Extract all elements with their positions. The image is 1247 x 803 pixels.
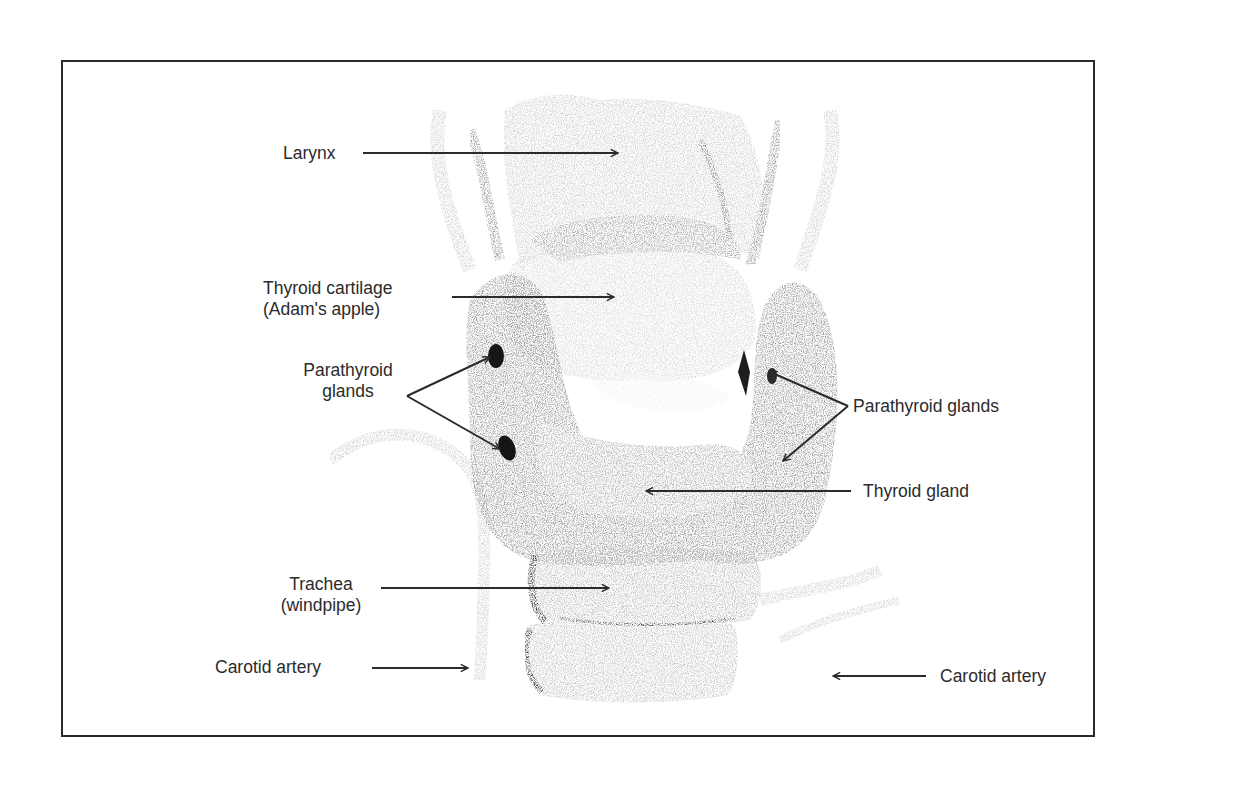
- label-larynx-text: Larynx: [283, 143, 336, 163]
- label-thyroid-gland: Thyroid gland: [863, 481, 969, 502]
- label-carotid-right-text: Carotid artery: [940, 666, 1046, 686]
- label-thyroid-cartilage-line1: Thyroid cartilage: [263, 278, 392, 299]
- larynx-shape: [470, 95, 780, 265]
- label-thyroid-gland-text: Thyroid gland: [863, 481, 969, 501]
- label-carotid-left: Carotid artery: [215, 657, 321, 678]
- label-parathyroid-right-text: Parathyroid glands: [853, 396, 999, 416]
- label-larynx: Larynx: [283, 143, 336, 164]
- label-parathyroid-left-line1: Parathyroid: [296, 360, 400, 381]
- label-trachea-line1: Trachea: [265, 574, 377, 595]
- label-thyroid-cartilage: Thyroid cartilage (Adam's apple): [263, 278, 392, 320]
- anatomy-illustration: [0, 0, 1247, 803]
- label-trachea: Trachea (windpipe): [265, 574, 377, 616]
- label-parathyroid-left-line2: glands: [296, 381, 400, 402]
- label-parathyroid-right: Parathyroid glands: [853, 396, 999, 417]
- trachea-shape: [526, 548, 761, 703]
- label-trachea-line2: (windpipe): [265, 595, 377, 616]
- label-carotid-left-text: Carotid artery: [215, 657, 321, 677]
- label-thyroid-cartilage-line2: (Adam's apple): [263, 299, 392, 320]
- label-carotid-right: Carotid artery: [940, 666, 1046, 687]
- label-parathyroid-left: Parathyroid glands: [296, 360, 400, 402]
